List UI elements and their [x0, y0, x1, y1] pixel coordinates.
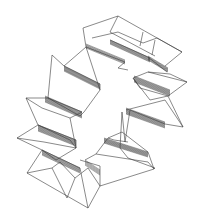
band-left-lower	[38, 125, 76, 146]
lower-right-wall-line	[96, 132, 154, 169]
band-top-right	[148, 56, 168, 72]
bottom-box-diag3-line	[75, 168, 100, 208]
bottom-box-diag1-line	[27, 168, 67, 198]
band-lower-right	[104, 138, 148, 157]
left-lower-panel-line	[17, 125, 76, 148]
top-box-diag1-line	[92, 32, 143, 43]
wireframe-edges	[17, 16, 187, 208]
top-box-vert1-line	[140, 32, 143, 46]
band-bottom-left	[42, 150, 80, 173]
top-box-outer-line	[83, 16, 182, 66]
wireframe-diagram	[0, 0, 198, 222]
top-box-diag2-line	[143, 38, 182, 52]
upper-left-diag-line	[64, 47, 86, 66]
top-box-vert2-line	[152, 40, 155, 55]
band-upper-left	[64, 66, 100, 89]
